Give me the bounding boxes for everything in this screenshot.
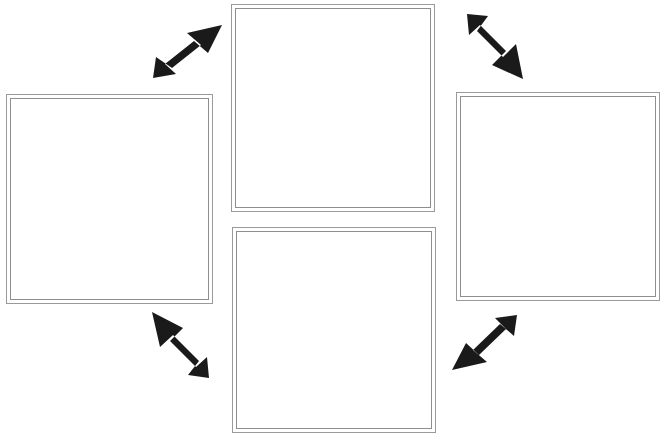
- arrow-northwest-icon: [152, 312, 209, 378]
- cycle-box-left-label: [11, 99, 208, 299]
- cycle-box-right[interactable]: [456, 92, 660, 301]
- cycle-box-top-label: [236, 9, 430, 207]
- cycle-box-left-inner: [10, 98, 209, 300]
- arrow-northeast-icon: [153, 25, 222, 78]
- arrow-southeast-icon: [467, 14, 523, 79]
- arrow-southwest-icon: [452, 315, 517, 370]
- cycle-box-bottom[interactable]: [232, 227, 436, 433]
- cycle-box-top[interactable]: [231, 4, 435, 212]
- cycle-diagram: [0, 0, 666, 440]
- cycle-box-top-inner: [235, 8, 431, 208]
- cycle-box-left[interactable]: [6, 94, 213, 304]
- cycle-box-bottom-label: [237, 232, 431, 428]
- cycle-box-bottom-inner: [236, 231, 432, 429]
- cycle-box-right-inner: [460, 96, 656, 297]
- cycle-box-right-label: [461, 97, 655, 296]
